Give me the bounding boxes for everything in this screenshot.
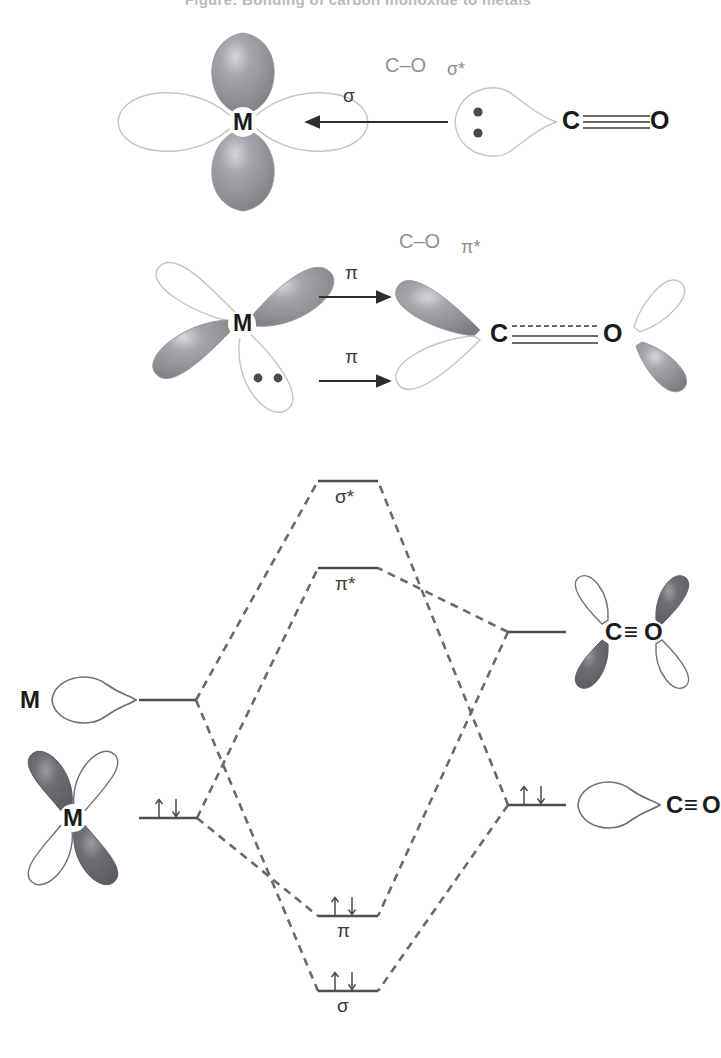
mo-level-label-sigma-star: σ* [335, 487, 354, 506]
orbital-lobe-white-upper-left [156, 262, 238, 322]
carbon-monoxide-pi [512, 326, 598, 343]
mo-co-sigma-oxygen-label: O [702, 793, 721, 817]
co-sigma-star-label-part1: C–O [385, 55, 426, 75]
orbital-lobe-dark-upper-left [28, 751, 72, 812]
mo-level-label-pi: π [337, 921, 350, 940]
orbital-lobe-shaded-oxygen-bottom [636, 342, 687, 392]
carbon-label-sigma: C [562, 108, 580, 133]
lone-pair-dot [254, 374, 263, 383]
pi-arrow-label-bottom: π [345, 347, 358, 366]
carbon-label-pi: C [490, 321, 508, 346]
oxygen-label-sigma: O [650, 108, 669, 133]
co-pistar-oxygen [634, 280, 687, 392]
orbital-lobe-dark-o-top [656, 576, 689, 624]
orbital-lobe-white-lower-left [28, 824, 72, 885]
mo-co-pistar-oxygen-label: O [644, 620, 663, 644]
mo-level-label-sigma: σ [337, 996, 349, 1015]
co-sigma-star-label-part2: σ* [447, 60, 465, 78]
lone-pair-dot [274, 374, 283, 383]
metal-d-orbital-pi [153, 262, 334, 412]
orbital-lobe-shaded-lower-left [153, 320, 234, 379]
orbital-lobe-white-left [118, 93, 236, 152]
orbital-lobe-shaded-bottom [212, 130, 274, 211]
mo-metal-empty-orbital [52, 677, 136, 723]
orbital-lobe-white-carbon-bottom [396, 336, 480, 389]
orbital-lobe-white-lower-right [239, 330, 293, 412]
metal-label-sigma: M [233, 110, 253, 134]
pi-arrow-label-top: π [345, 263, 358, 282]
electron-pair-sigma [332, 972, 356, 990]
mo-co-pistar-carbon-label: C [605, 620, 622, 644]
electron-pair-co-sigma [521, 786, 545, 804]
mo-co-sigma-carbon-label: C [666, 793, 683, 817]
co-pistar-carbon [396, 281, 480, 390]
co-pi-star-label-part1: C–O [399, 231, 440, 251]
orbital-lobe-shaded-top [212, 33, 274, 114]
orbital-lobe-dark-lower-right [74, 824, 118, 885]
mo-level-label-pi-star: π* [335, 574, 356, 593]
panel-mo-diagram [28, 481, 689, 991]
co-pi-star-label-part2: π* [461, 238, 480, 256]
electron-arrows [156, 786, 545, 990]
orbital-lobe-white-upper-right [74, 751, 118, 812]
orbital-lobe-shaded-carbon-top [396, 281, 480, 336]
electron-pair-pi [332, 897, 356, 915]
mo-co-sigma-bond-label: ≡ [684, 793, 698, 817]
orbital-lobe-white-oxygen-top [634, 280, 685, 332]
electron-pair-metal-filled [156, 799, 180, 817]
lone-pair-dot [473, 107, 482, 116]
mo-metal-label-lower: M [63, 806, 83, 830]
lone-pair-dot [473, 128, 482, 137]
mo-metal-label-upper: M [20, 688, 40, 712]
orbital-lobe-white-c-top [575, 576, 608, 624]
sigma-arrow-label: σ [343, 86, 355, 105]
carbon-monoxide-sigma [583, 116, 650, 128]
metal-label-pi: M [233, 312, 252, 335]
orbital-lobe-dark-c-bottom [575, 640, 608, 688]
mo-co-sigma-orbital [578, 782, 660, 828]
oxygen-label-pi: O [603, 321, 622, 346]
co-sigma-donor-lobe [455, 88, 556, 156]
mo-co-pistar-bond-label: ≡ [624, 620, 638, 644]
orbital-lobe-white-o-bottom [656, 640, 689, 688]
